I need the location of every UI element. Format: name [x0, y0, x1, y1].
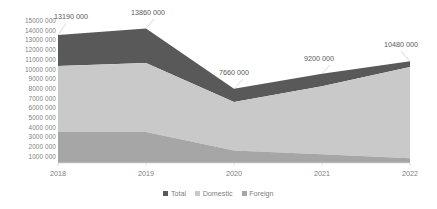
data-label-total-2019: 13860 000 — [131, 9, 165, 16]
x-axis-tick: 2018 — [38, 170, 78, 177]
data-label-total-2021: 9200 000 — [304, 55, 334, 62]
legend-item-total[interactable]: Total — [163, 190, 186, 197]
legend-label: Domestic — [203, 190, 233, 197]
legend-swatch-icon — [242, 191, 247, 196]
chart-legend: Total Domestic Foreign — [0, 190, 437, 197]
area-chart: 15000 000 14000 000 13000 000 12000 000 … — [0, 0, 437, 209]
legend-swatch-icon — [195, 191, 200, 196]
legend-label: Foreign — [249, 190, 273, 197]
x-axis-ticks — [58, 163, 410, 166]
legend-item-domestic[interactable]: Domestic — [195, 190, 232, 197]
data-label-total-2018: 13190 000 — [54, 13, 88, 20]
x-axis-tick: 2020 — [214, 170, 254, 177]
x-axis-tick: 2019 — [126, 170, 166, 177]
legend-label: Total — [171, 190, 186, 197]
legend-item-foreign[interactable]: Foreign — [242, 190, 274, 197]
x-axis-tick: 2021 — [302, 170, 342, 177]
data-label-total-2022: 10480 000 — [384, 41, 418, 48]
data-label-total-2020: 7660 000 — [219, 69, 249, 76]
x-axis-tick: 2022 — [390, 170, 430, 177]
legend-swatch-icon — [163, 191, 168, 196]
